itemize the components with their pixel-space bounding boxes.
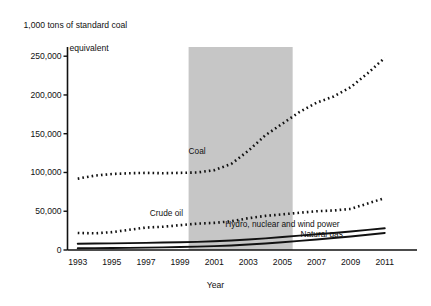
x-tick-label: 1995: [102, 257, 121, 267]
chart-container: 1,000 tons of standard coal equivalent 0…: [0, 0, 431, 306]
y-tick-label: 150,000: [8, 129, 62, 139]
y-tick-label: 0: [8, 245, 62, 255]
x-tick-label: 2007: [307, 257, 326, 267]
y-tick-label: 250,000: [8, 51, 62, 61]
x-tick-label: 2001: [205, 257, 224, 267]
series-label-3: Natural gas: [300, 229, 342, 239]
x-tick-label: 2003: [239, 257, 258, 267]
x-tick-label: 1997: [136, 257, 155, 267]
y-tick-label: 100,000: [8, 167, 62, 177]
series-label-2: Hydro, nuclear and wind power: [225, 219, 339, 229]
x-tick-label: 2005: [273, 257, 292, 267]
x-tick-label: 2011: [376, 257, 394, 267]
series-label-1: Crude oil: [150, 208, 183, 218]
y-tick-label: 50,000: [8, 206, 62, 216]
x-tick-label: 2009: [341, 257, 360, 267]
x-tick-label: 1999: [171, 257, 190, 267]
x-axis-title: Year: [0, 280, 431, 292]
x-tick-label: 1993: [68, 257, 87, 267]
y-tick-label: 200,000: [8, 90, 62, 100]
series-label-0: Coal: [189, 146, 206, 156]
